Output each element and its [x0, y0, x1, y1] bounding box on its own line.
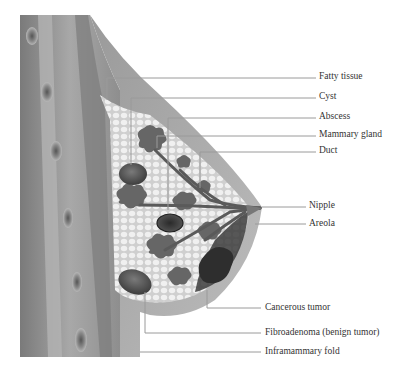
label-fibroadenoma: Fibroadenoma (benign tumor)	[265, 327, 380, 338]
label-mammary-gland: Mammary gland	[319, 129, 382, 140]
label-abscess: Abscess	[319, 111, 350, 122]
anatomy-illustration	[0, 0, 403, 372]
abscess-core	[157, 214, 183, 232]
label-inframammary-fold: Inframammary fold	[265, 346, 340, 357]
label-fatty-tissue: Fatty tissue	[319, 71, 363, 82]
label-cancerous-tumor: Cancerous tumor	[265, 302, 330, 313]
chest-wall	[20, 15, 120, 357]
breast-anatomy-diagram: Fatty tissue Cyst Abscess Mammary gland …	[0, 0, 403, 372]
label-duct: Duct	[319, 145, 337, 156]
label-nipple: Nipple	[309, 200, 335, 211]
label-areola: Areola	[309, 218, 335, 229]
cyst-shape	[119, 163, 147, 185]
label-cyst: Cyst	[319, 91, 336, 102]
